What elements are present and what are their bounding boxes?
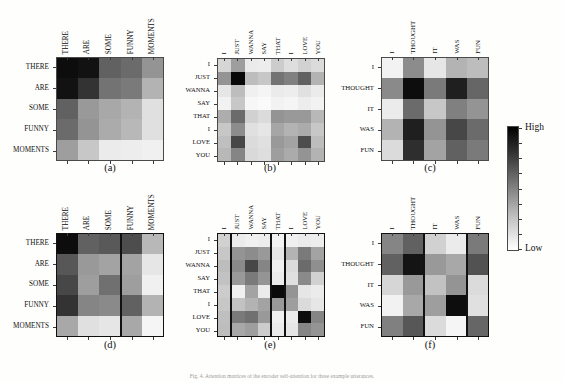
- column-label: I: [220, 228, 227, 230]
- heatmap-cell: [57, 275, 78, 295]
- heatmap-cell: [245, 110, 258, 123]
- row-labels-f: ITHOUGHTITWASFUN: [317, 233, 377, 337]
- heatmap-cell: [424, 58, 445, 78]
- heatmap-cell: [258, 85, 271, 98]
- heatmap-cell: [298, 323, 311, 336]
- heatmap-cell: [99, 295, 120, 315]
- heatmap-cell: [446, 295, 467, 315]
- row-label: I: [208, 126, 213, 133]
- heatmap-cell: [99, 254, 120, 274]
- heatmap-cell: [298, 136, 311, 149]
- heatmap-cell: [245, 148, 258, 161]
- heatmap-cell: [258, 272, 271, 285]
- heatmap-cell: [446, 99, 467, 119]
- heatmap-cell: [231, 298, 244, 311]
- column-label: THOUGHT: [410, 21, 417, 54]
- heatmap-cell: [121, 275, 142, 295]
- heatmap-cell: [298, 148, 311, 161]
- heatmap-cell: [271, 72, 284, 85]
- heatmap-cell: [284, 97, 297, 110]
- heatmap-cell: [271, 323, 284, 336]
- row-label: SOME: [29, 105, 52, 112]
- row-label: I: [208, 301, 213, 308]
- heatmap-cell: [231, 72, 244, 85]
- heatmap-cell: [382, 58, 403, 78]
- heatmap-cell: [284, 311, 297, 324]
- heatmap-cell: [218, 272, 231, 285]
- row-label: THAT: [193, 113, 213, 120]
- row-ticks-f: [378, 233, 381, 337]
- row-label: JUST: [195, 249, 213, 256]
- row-label: WAS: [360, 302, 377, 309]
- column-labels-f: ITHOUGHTITWASFUN: [381, 191, 489, 231]
- column-ticks-top-e: [217, 233, 325, 236]
- row-label: IT: [368, 282, 377, 289]
- row-label: WANNA: [185, 262, 213, 269]
- heatmap-cell: [403, 316, 424, 336]
- heatmap-cell: [467, 295, 488, 315]
- column-label: FUN: [475, 40, 482, 54]
- column-label: IT: [432, 48, 439, 54]
- heatmap-cell: [284, 85, 297, 98]
- heatmap-cell: [258, 298, 271, 311]
- column-label: JUST: [234, 40, 241, 55]
- heatmap-cell: [467, 58, 488, 78]
- heatmap-cell: [121, 99, 142, 119]
- heatmap-cell: [403, 140, 424, 160]
- row-ticks-c: [378, 57, 381, 161]
- heatmap-cell: [284, 110, 297, 123]
- row-label: THERE: [26, 240, 52, 247]
- heatmap-cell: [403, 295, 424, 315]
- column-label: I: [288, 228, 295, 230]
- column-label: MOMENTS: [150, 18, 157, 54]
- row-ticks-b: [214, 58, 217, 162]
- heatmap-cell: [121, 295, 142, 315]
- heatmap-matrix-f: [381, 233, 489, 337]
- column-labels-c: ITHOUGHTITWASFUN: [381, 15, 489, 55]
- row-ticks-d: [53, 233, 56, 337]
- heatmap-cell: [231, 311, 244, 324]
- row-label: WANNA: [185, 87, 213, 94]
- heatmap-cell: [446, 275, 467, 295]
- row-label: THAT: [193, 288, 213, 295]
- heatmap-cell: [271, 260, 284, 273]
- heatmap-cell: [231, 272, 244, 285]
- heatmap-cell: [245, 323, 258, 336]
- heatmap-cell: [403, 234, 424, 254]
- heatmap-cell: [121, 119, 142, 139]
- column-label: WANNA: [247, 205, 254, 230]
- heatmap-cell: [284, 323, 297, 336]
- row-label: FUN: [360, 323, 377, 330]
- heatmap-cell: [142, 99, 163, 119]
- heatmap-cell: [231, 123, 244, 136]
- heatmap-cell: [231, 260, 244, 273]
- heatmap-cell: [78, 234, 99, 254]
- heatmap-cell: [142, 275, 163, 295]
- heatmap-cell: [99, 275, 120, 295]
- heatmap-cell: [258, 260, 271, 273]
- heatmap-cell: [245, 136, 258, 149]
- row-label: LOVE: [192, 139, 213, 146]
- row-labels-e: IJUSTWANNASAYTHATILOVEYOU: [175, 233, 213, 337]
- column-label: THERE: [63, 31, 70, 54]
- heatmap-cell: [467, 234, 488, 254]
- heatmap-cell: [231, 85, 244, 98]
- column-label: WAS: [453, 216, 460, 230]
- heatmap-cell: [424, 234, 445, 254]
- column-label: JUST: [234, 215, 241, 230]
- column-ticks-top-a: [56, 57, 164, 60]
- column-label: I: [288, 53, 295, 55]
- heatmap-cell: [78, 119, 99, 139]
- column-label: WAS: [453, 40, 460, 54]
- heatmap-cell: [298, 72, 311, 85]
- heatmap-cell: [298, 260, 311, 273]
- heatmap-matrix-a: [56, 57, 164, 161]
- heatmap-cell: [78, 140, 99, 160]
- heatmap-cell: [231, 323, 244, 336]
- column-label: SOME: [106, 34, 113, 54]
- row-label: WAS: [360, 126, 377, 133]
- heatmap-cell: [382, 316, 403, 336]
- heatmap-cell: [271, 148, 284, 161]
- column-label: ARE: [85, 40, 92, 54]
- heatmap-cell: [78, 99, 99, 119]
